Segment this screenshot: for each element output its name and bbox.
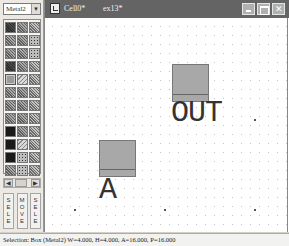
layer-swatch[interactable] [17,165,28,176]
layer-swatch[interactable] [5,22,16,33]
status-bar: Selection: Box (Metal2) W=4.000, H=4.000… [0,233,289,246]
layer-swatch[interactable] [29,74,40,85]
layer-swatch[interactable] [5,165,16,176]
tool-button-letter: S [33,197,37,204]
document-titlebar: Cell0* ex13* ✕ [45,0,289,18]
metal2-box-a[interactable] [99,140,136,177]
layer-select[interactable]: Metal2 ▼ [3,3,41,15]
tool-button-letter: E [33,218,37,225]
grid-major-dot [164,209,166,211]
grid-major-dot [254,209,256,211]
layer-swatch[interactable] [5,87,16,98]
tool-button-letter: E [6,218,10,225]
tool-button-letter: O [20,204,25,211]
layer-swatch[interactable] [5,113,16,124]
layer-swatch[interactable] [29,152,40,163]
tool-button-letter: M [20,197,25,204]
layer-swatch[interactable] [29,35,40,46]
tool-button-sele-2[interactable]: SELE [30,193,41,229]
palette-horizontal-scrollbar[interactable]: ◀ ▶ [3,178,41,188]
layer-swatch[interactable] [29,87,40,98]
layer-swatch[interactable] [17,152,28,163]
layer-swatch[interactable] [5,139,16,150]
scroll-thumb[interactable] [15,179,27,187]
layer-swatch[interactable] [29,61,40,72]
maximize-button[interactable] [257,3,270,15]
layer-select-value: Metal2 [6,5,26,13]
layer-swatch[interactable] [29,139,40,150]
layer-swatch[interactable] [5,74,16,85]
tool-button-letter: V [20,211,24,218]
layer-swatch[interactable] [5,35,16,46]
layer-swatch[interactable] [5,61,16,72]
document-window: Cell0* ex13* ✕ OUT A [44,0,289,232]
tool-button-sele-0[interactable]: SELE [3,193,14,229]
tab-cell0[interactable]: Cell0* [64,3,85,15]
layer-swatch[interactable] [17,74,28,85]
tool-button-letter: L [34,211,37,218]
layer-swatch[interactable] [17,113,28,124]
layout-editor-app: Metal2 ▼ ◀ ▶ SELEMOVESELE Cell0* ex13* ✕… [0,0,289,246]
layer-swatch[interactable] [17,100,28,111]
label-a[interactable]: A [99,175,117,205]
tool-button-move-1[interactable]: MOVE [17,193,28,229]
scroll-right-icon[interactable]: ▶ [31,179,40,187]
tab-ex13[interactable]: ex13* [103,3,123,15]
layer-swatch[interactable] [17,22,28,33]
layer-swatch[interactable] [29,48,40,59]
layout-canvas[interactable]: OUT A [45,18,288,232]
tool-button-letter: S [6,197,10,204]
layer-swatch[interactable] [17,87,28,98]
layer-swatch[interactable] [29,126,40,137]
tool-button-letter: L [7,211,10,218]
layer-panel: Metal2 ▼ ◀ ▶ SELEMOVESELE [0,0,44,232]
tool-button-letter: E [6,204,10,211]
layer-swatch[interactable] [17,126,28,137]
scroll-left-icon[interactable]: ◀ [4,179,13,187]
minimize-button[interactable] [242,3,255,15]
layer-swatch[interactable] [5,126,16,137]
layer-swatch[interactable] [5,152,16,163]
layer-swatch[interactable] [5,100,16,111]
tool-buttons: SELEMOVESELE [3,193,41,231]
close-button[interactable]: ✕ [272,3,285,15]
layer-palette [3,19,41,174]
label-out[interactable]: OUT [171,98,222,128]
tool-button-letter: E [20,218,24,225]
layer-swatch[interactable] [29,165,40,176]
layer-swatch[interactable] [17,35,28,46]
layer-swatch[interactable] [17,61,28,72]
layer-swatch[interactable] [17,48,28,59]
grid-major-dot [254,119,256,121]
layer-swatch[interactable] [29,22,40,33]
layer-swatch[interactable] [29,113,40,124]
layer-swatch[interactable] [17,139,28,150]
grid-origin-dot [74,209,76,211]
layer-swatch[interactable] [29,100,40,111]
chevron-down-icon[interactable]: ▼ [31,4,40,14]
tool-button-letter: E [33,204,37,211]
layer-swatch[interactable] [5,48,16,59]
document-icon [50,3,60,14]
